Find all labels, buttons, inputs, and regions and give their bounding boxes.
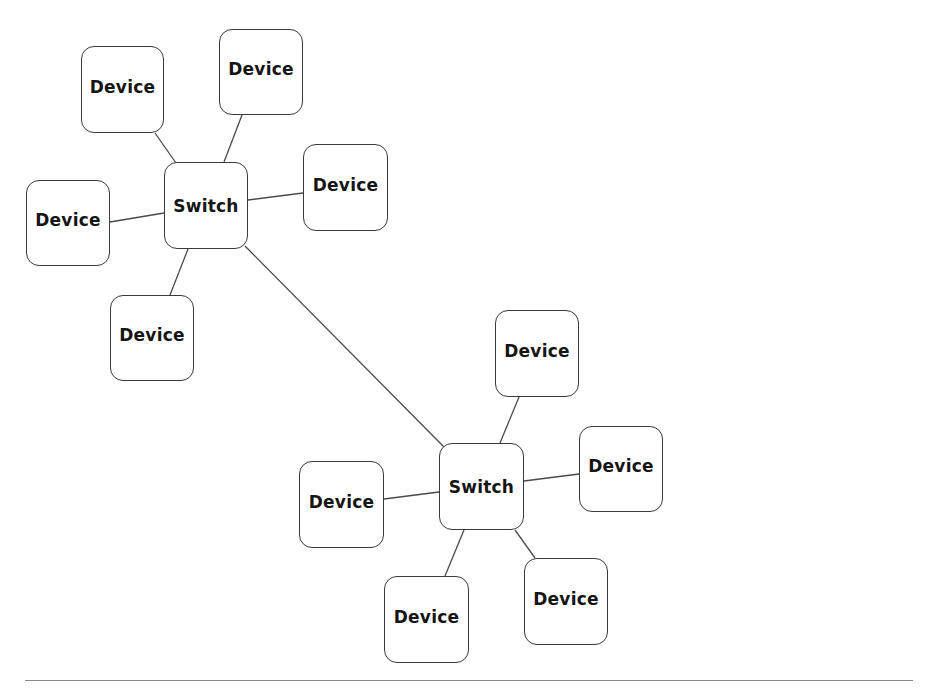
bottom-divider xyxy=(25,680,913,681)
link-switch-1-switch-2 xyxy=(245,246,444,447)
link-switch-2-device-8 xyxy=(384,492,439,499)
device-node[interactable]: Device xyxy=(579,426,663,512)
device-node[interactable]: Device xyxy=(495,310,579,397)
device-node[interactable]: Device xyxy=(81,46,164,133)
link-switch-2-device-9 xyxy=(445,530,464,576)
device-node[interactable]: Device xyxy=(524,558,608,645)
device-label: Device xyxy=(504,341,569,361)
link-switch-1-device-3 xyxy=(248,193,303,200)
switch-label: Switch xyxy=(173,196,238,216)
device-label: Device xyxy=(90,77,155,97)
device-node[interactable]: Device xyxy=(110,295,194,381)
switch-node[interactable]: Switch xyxy=(164,162,248,249)
link-switch-2-device-7 xyxy=(524,474,579,481)
device-node[interactable]: Device xyxy=(303,144,388,231)
device-label: Device xyxy=(309,492,374,512)
link-switch-1-device-4 xyxy=(110,213,164,222)
device-node[interactable]: Device xyxy=(384,576,469,663)
link-switch-2-device-10 xyxy=(515,530,535,558)
switch-node[interactable]: Switch xyxy=(439,443,524,530)
link-switch-1-device-1 xyxy=(155,133,176,163)
device-label: Device xyxy=(119,325,184,345)
device-node[interactable]: Device xyxy=(26,180,110,266)
device-label: Device xyxy=(533,589,598,609)
link-switch-2-device-6 xyxy=(500,397,519,443)
device-label: Device xyxy=(588,456,653,476)
device-node[interactable]: Device xyxy=(219,29,303,115)
device-label: Device xyxy=(228,59,293,79)
device-label: Device xyxy=(35,210,100,230)
link-switch-1-device-2 xyxy=(224,115,242,162)
network-diagram: SwitchDeviceDeviceDeviceDeviceDeviceSwit… xyxy=(0,0,928,695)
device-label: Device xyxy=(313,175,378,195)
device-node[interactable]: Device xyxy=(299,461,384,548)
link-switch-1-device-5 xyxy=(170,249,188,295)
device-label: Device xyxy=(394,607,459,627)
switch-label: Switch xyxy=(449,477,514,497)
